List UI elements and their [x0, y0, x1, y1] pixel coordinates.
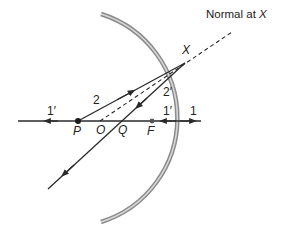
concave-mirror: [101, 14, 177, 222]
concave-mirror-diagram: Normal at X X P O Q F 1 1′ 1′ 2 2′: [0, 0, 282, 236]
point-x-label: X: [181, 43, 191, 57]
point-q-label: Q: [118, 123, 127, 137]
point-f-label: F: [147, 124, 155, 138]
ray-1-reflected-label-left: 1′: [47, 104, 57, 118]
point-p-label: P: [73, 124, 81, 138]
point-o-label: O: [96, 123, 105, 137]
normal-label: Normal at X: [206, 8, 268, 20]
ray-2-label: 2: [93, 93, 100, 107]
point-f-dot: [150, 119, 155, 124]
ray-2-arrow: [118, 92, 132, 100]
ray-2-reflected-arrow-lower: [64, 165, 74, 174]
ray-1-reflected-label-right: 1′: [163, 104, 173, 118]
ray-2-reflected-label: 2′: [163, 85, 173, 99]
ray-2-reflected-arrow-upper: [138, 98, 147, 106]
ray-1-label: 1: [190, 104, 197, 118]
